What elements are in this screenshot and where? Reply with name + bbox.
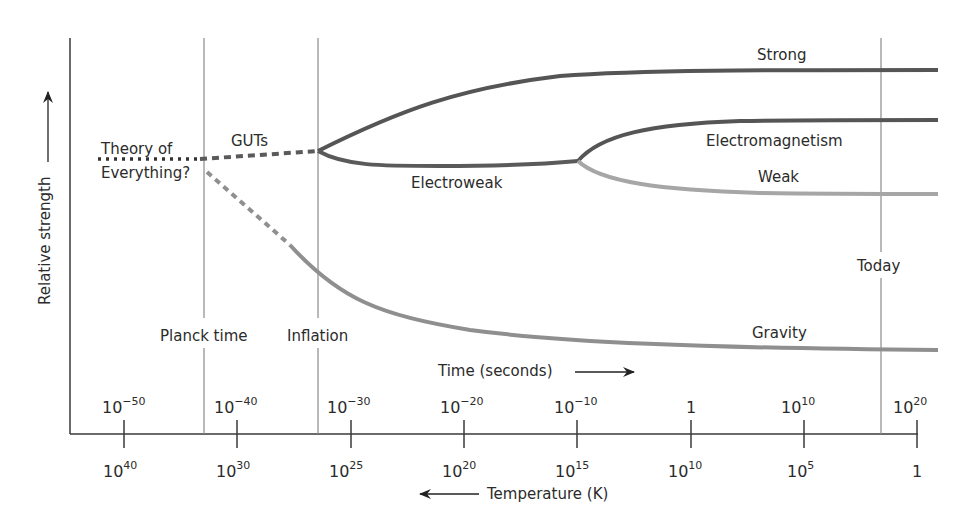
svg-text:1030: 1030 <box>216 459 250 481</box>
svg-text:10−40: 10−40 <box>214 395 258 417</box>
toe-label-line2: Everything? <box>101 164 190 182</box>
time-tick-labels: 10−50 10−40 10−30 10−20 10−10 1 1010 102… <box>102 395 927 417</box>
svg-text:10−30: 10−30 <box>327 395 371 417</box>
svg-text:1: 1 <box>912 462 922 481</box>
today-label: Today <box>856 257 901 275</box>
inflation-label: Inflation <box>287 327 348 345</box>
electromagnetism-label: Electromagnetism <box>706 132 843 150</box>
forces-unification-diagram: Relative strength Theory of Everything? … <box>0 0 958 532</box>
svg-text:1025: 1025 <box>329 459 363 481</box>
time-axis-label: Time (seconds) <box>437 362 553 380</box>
svg-text:10−50: 10−50 <box>102 395 146 417</box>
weak-label: Weak <box>758 168 799 186</box>
planck-time-label: Planck time <box>160 327 248 345</box>
strong-line <box>318 70 938 151</box>
electroweak-line <box>318 151 578 166</box>
guts-label: GUTs <box>231 132 268 150</box>
gravity-line <box>290 245 938 350</box>
svg-text:1015: 1015 <box>555 459 589 481</box>
svg-text:1020: 1020 <box>893 395 927 417</box>
electroweak-label: Electroweak <box>411 174 503 192</box>
svg-text:1010: 1010 <box>781 395 815 417</box>
strong-label: Strong <box>757 46 806 64</box>
svg-text:1010: 1010 <box>668 459 702 481</box>
toe-label-line1: Theory of <box>100 140 173 158</box>
svg-text:10−10: 10−10 <box>554 395 598 417</box>
temperature-axis-label: Temperature (K) <box>486 485 608 503</box>
svg-text:1040: 1040 <box>103 459 137 481</box>
svg-text:1: 1 <box>686 398 696 417</box>
guts-line <box>200 151 318 159</box>
temperature-tick-labels: 1040 1030 1025 1020 1015 1010 105 1 <box>103 459 922 481</box>
svg-text:1020: 1020 <box>442 459 476 481</box>
svg-text:105: 105 <box>787 459 814 481</box>
svg-text:10−20: 10−20 <box>440 395 484 417</box>
y-axis-label: Relative strength <box>36 177 54 305</box>
gravity-label: Gravity <box>752 324 807 342</box>
gravity-dashed-line <box>207 172 290 245</box>
